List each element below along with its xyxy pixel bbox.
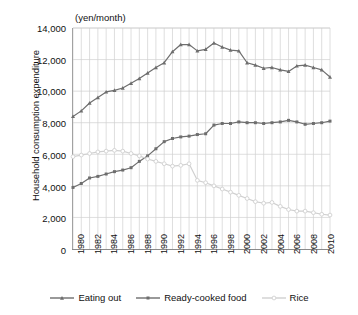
x-axis-tick-label: 2008 bbox=[309, 234, 319, 254]
series-eating-out bbox=[71, 41, 332, 118]
data-point-marker bbox=[72, 186, 75, 189]
data-point-marker bbox=[254, 121, 257, 124]
x-axis-tick-label: 1986 bbox=[126, 234, 136, 254]
data-point-marker bbox=[279, 120, 282, 123]
data-point-marker bbox=[179, 135, 182, 138]
legend-item[interactable]: Eating out bbox=[49, 292, 121, 303]
data-point-marker bbox=[137, 154, 141, 158]
data-point-marker bbox=[121, 169, 124, 172]
data-point-marker bbox=[138, 160, 141, 163]
data-point-marker bbox=[179, 163, 183, 167]
data-point-marker bbox=[262, 201, 266, 205]
data-point-marker bbox=[154, 159, 158, 163]
series-rice bbox=[71, 148, 332, 217]
data-point-marker bbox=[312, 211, 316, 215]
y-axis-tick-label: 12,000 bbox=[6, 54, 66, 65]
series-line bbox=[73, 120, 330, 187]
data-point-marker bbox=[96, 175, 99, 178]
data-point-marker bbox=[329, 120, 332, 123]
data-point-marker bbox=[212, 41, 216, 45]
data-point-marker bbox=[287, 208, 291, 212]
data-point-marker bbox=[147, 296, 150, 299]
data-point-marker bbox=[320, 121, 323, 124]
data-point-marker bbox=[80, 182, 83, 185]
x-axis-tick-label: 1994 bbox=[193, 234, 203, 254]
data-point-marker bbox=[88, 152, 92, 156]
series-lines bbox=[73, 28, 330, 249]
data-point-marker bbox=[104, 149, 108, 153]
legend-item[interactable]: Ready-cooked food bbox=[135, 292, 246, 303]
legend-label: Eating out bbox=[78, 292, 121, 303]
x-axis-tick-label: 2000 bbox=[242, 234, 252, 254]
data-point-marker bbox=[88, 176, 91, 179]
legend-label: Rice bbox=[290, 292, 309, 303]
data-point-marker bbox=[187, 162, 191, 166]
x-axis-tick-label: 1992 bbox=[176, 234, 186, 254]
data-point-marker bbox=[237, 120, 240, 123]
data-point-marker bbox=[204, 181, 208, 185]
legend-marker-icon bbox=[49, 293, 75, 303]
data-point-marker bbox=[204, 132, 207, 135]
x-axis-tick-label: 2004 bbox=[276, 234, 286, 254]
data-point-marker bbox=[229, 122, 232, 125]
x-axis-tick-label: 1990 bbox=[159, 234, 169, 254]
data-point-marker bbox=[195, 178, 199, 182]
data-point-marker bbox=[303, 209, 307, 213]
data-point-marker bbox=[270, 201, 274, 205]
data-point-marker bbox=[105, 173, 108, 176]
y-axis-tick-label: 14,000 bbox=[6, 23, 66, 34]
data-point-marker bbox=[246, 121, 249, 124]
unit-caption: (yen/month) bbox=[75, 12, 126, 23]
legend-label: Ready-cooked food bbox=[164, 292, 246, 303]
data-point-marker bbox=[262, 122, 265, 125]
data-point-marker bbox=[272, 296, 276, 300]
x-axis-tick-label: 2010 bbox=[326, 234, 336, 254]
data-point-marker bbox=[171, 137, 174, 140]
x-axis-tick-label: 1988 bbox=[143, 234, 153, 254]
data-point-marker bbox=[79, 153, 83, 157]
data-point-marker bbox=[71, 155, 75, 159]
x-axis-tick-label: 1996 bbox=[209, 234, 219, 254]
plot-area bbox=[72, 28, 330, 250]
data-point-marker bbox=[220, 187, 224, 191]
data-point-marker bbox=[229, 190, 233, 194]
data-point-marker bbox=[253, 200, 257, 204]
y-axis-tick-label: 6,000 bbox=[6, 149, 66, 160]
data-point-marker bbox=[287, 119, 290, 122]
data-point-marker bbox=[162, 162, 166, 166]
x-axis-tick-label: 1984 bbox=[109, 234, 119, 254]
y-axis-tick-label: 0 bbox=[6, 245, 66, 256]
legend-item[interactable]: Rice bbox=[261, 292, 309, 303]
data-point-marker bbox=[245, 197, 249, 201]
x-axis-tick-label: 2002 bbox=[259, 234, 269, 254]
data-point-marker bbox=[278, 204, 282, 208]
y-axis-tick-label: 4,000 bbox=[6, 181, 66, 192]
data-point-marker bbox=[221, 122, 224, 125]
data-point-marker bbox=[295, 120, 298, 123]
series-line bbox=[73, 150, 330, 215]
data-point-marker bbox=[304, 123, 307, 126]
data-point-marker bbox=[113, 170, 116, 173]
y-axis-tick-label: 2,000 bbox=[6, 213, 66, 224]
data-point-marker bbox=[130, 166, 133, 169]
data-point-marker bbox=[212, 184, 216, 188]
data-point-marker bbox=[121, 149, 125, 153]
data-point-marker bbox=[129, 152, 133, 156]
legend-marker-icon bbox=[135, 293, 161, 303]
series-line bbox=[73, 43, 330, 116]
data-point-marker bbox=[113, 148, 117, 152]
data-point-marker bbox=[154, 147, 157, 150]
y-axis-tick-label: 8,000 bbox=[6, 118, 66, 129]
legend-marker-icon bbox=[261, 293, 287, 303]
data-point-marker bbox=[312, 122, 315, 125]
series-ready-cooked-food bbox=[72, 119, 332, 189]
data-point-marker bbox=[212, 124, 215, 127]
x-axis-tick-label: 1980 bbox=[76, 234, 86, 254]
data-point-marker bbox=[96, 150, 100, 154]
data-point-marker bbox=[171, 164, 175, 168]
chart-container: Household consumption expenditure (yen/m… bbox=[0, 0, 358, 315]
data-point-marker bbox=[320, 212, 324, 216]
chart-legend: Eating outReady-cooked foodRice bbox=[0, 292, 358, 303]
data-point-marker bbox=[188, 135, 191, 138]
x-axis-tick-label: 2006 bbox=[292, 234, 302, 254]
